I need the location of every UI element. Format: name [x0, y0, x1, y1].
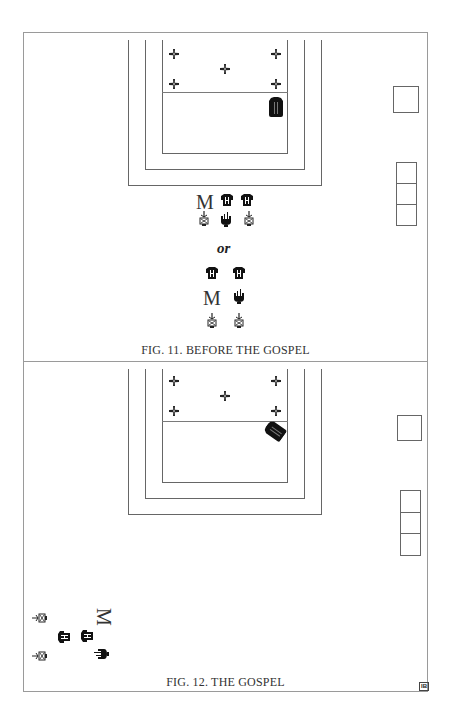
thurible-icon — [232, 288, 246, 304]
cross-icon — [220, 391, 230, 401]
m-letter-icon: M — [203, 288, 221, 308]
cross-icon — [220, 64, 230, 74]
figure-11-caption: FIG. 11. BEFORE THE GOSPEL — [23, 343, 428, 358]
cross-icon — [271, 79, 281, 89]
ib-corner-mark: IB — [419, 682, 429, 691]
cross-icon — [271, 376, 281, 386]
figure-icon — [220, 193, 234, 207]
figure-icon — [205, 266, 219, 280]
credence-box — [397, 415, 422, 441]
or-label: or — [217, 240, 230, 257]
sedilia-box-3 — [400, 533, 421, 556]
cross-icon — [169, 79, 179, 89]
m-letter-icon: M — [196, 192, 214, 212]
m-letter-icon: M — [94, 608, 114, 626]
sedilia-box-2 — [400, 512, 421, 534]
figure-12-caption: FIG. 12. THE GOSPEL — [23, 675, 428, 690]
candle-icon — [206, 313, 218, 329]
sedilia-box-1 — [400, 490, 421, 513]
credence-box — [393, 86, 419, 113]
thurible-icon — [219, 211, 233, 227]
cross-icon — [169, 376, 179, 386]
candle-icon — [243, 211, 255, 227]
cross-icon — [271, 49, 281, 59]
candle-icon — [198, 211, 210, 227]
figure-icon — [240, 193, 254, 207]
altar-mensa-line — [162, 92, 288, 93]
figure-icon — [57, 630, 71, 644]
sedilia-box-3 — [396, 204, 417, 226]
candle-icon — [233, 313, 245, 329]
sedilia-box-1 — [396, 162, 417, 184]
figure-icon — [232, 266, 246, 280]
cross-icon — [169, 406, 179, 416]
cross-icon — [169, 49, 179, 59]
figure-icon — [80, 629, 94, 643]
sedilia-box-2 — [396, 183, 417, 205]
cross-icon — [271, 406, 281, 416]
thurible-icon — [93, 647, 109, 661]
book-icon — [268, 97, 284, 117]
candle-icon — [32, 612, 48, 624]
candle-icon — [32, 650, 48, 662]
